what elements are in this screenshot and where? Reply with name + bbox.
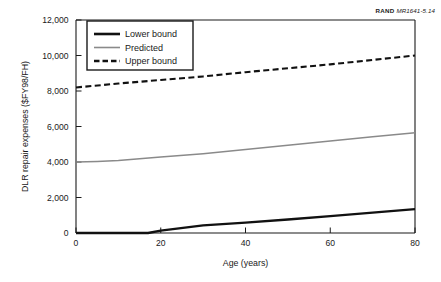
legend-label-lower-bound: Lower bound (125, 29, 177, 39)
y-tick-label: 2,000 (47, 193, 69, 203)
chart-figure: RANDMR1641-5.14 02,0004,0006,0008,00010,… (0, 0, 441, 282)
x-axis-tick-labels: 020406080 (74, 238, 420, 248)
y-axis-ticks (76, 20, 82, 233)
y-tick-label: 10,000 (42, 51, 69, 61)
x-tick-label: 40 (241, 238, 251, 248)
x-tick-label: 20 (156, 238, 166, 248)
y-tick-label: 8,000 (47, 86, 69, 96)
legend-label-predicted: Predicted (125, 43, 163, 53)
series-line-predicted (76, 133, 415, 162)
legend-label-upper-bound: Upper bound (125, 56, 177, 66)
y-axis-title: DLR repair expenses ($FY98/FH) (20, 61, 30, 192)
x-axis-title: Age (years) (223, 258, 269, 268)
line-chart-svg: 02,0004,0006,0008,00010,00012,000 020406… (0, 0, 441, 282)
y-tick-label: 6,000 (47, 122, 69, 132)
x-tick-label: 60 (325, 238, 335, 248)
y-axis-tick-labels: 02,0004,0006,0008,00010,00012,000 (42, 15, 69, 238)
y-tick-label: 12,000 (42, 15, 69, 25)
x-tick-label: 80 (410, 238, 420, 248)
y-tick-label: 4,000 (47, 157, 69, 167)
y-tick-label: 0 (64, 228, 69, 238)
chart-legend: Lower boundPredictedUpper bound (87, 21, 193, 70)
x-tick-label: 0 (74, 238, 79, 248)
